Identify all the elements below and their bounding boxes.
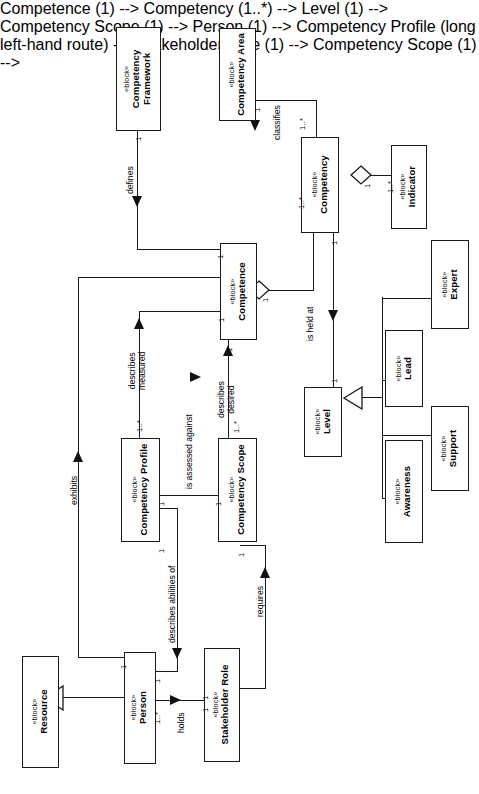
- multiplicity-competency-aggregation-end: 1: [363, 184, 372, 188]
- block-name-label: Competence: [237, 262, 248, 321]
- association-label-describes-desired: describes desired: [217, 381, 237, 418]
- block-competence-text: «block» Competence: [229, 262, 248, 321]
- multiplicity-level-end: 1: [330, 379, 339, 383]
- block-competency-profile[interactable]: «block» Competency Profile: [121, 438, 160, 542]
- line-area-to-competency-h: [255, 100, 317, 101]
- block-indicator-text: «block» Indicator: [400, 166, 419, 207]
- block-name-label: Resource: [39, 690, 50, 735]
- multiplicity-profile-assessed-end: 1: [157, 502, 166, 506]
- block-support[interactable]: «block» Support: [431, 406, 469, 491]
- block-name-label: Expert: [449, 269, 460, 299]
- multiplicity-competency-from-area: 1..*: [298, 118, 307, 130]
- block-stakeholder-role[interactable]: «block» Stakeholder Role: [204, 648, 240, 762]
- block-person-text: «block» Person: [130, 691, 149, 724]
- describes-abilities-of-arrowhead-icon: [172, 648, 182, 659]
- block-person[interactable]: «block» Person: [124, 652, 156, 764]
- block-name-label: Awareness: [403, 466, 414, 517]
- block-competence[interactable]: «block» Competence: [220, 243, 257, 340]
- multiplicity-framework-end: 1: [134, 137, 143, 141]
- multiplicity-scope-assessed-end: 1: [214, 502, 223, 506]
- block-lead[interactable]: «block» Lead: [385, 330, 423, 407]
- block-awareness[interactable]: «block» Awareness: [385, 440, 423, 543]
- block-name-label: Competency Area: [236, 33, 247, 116]
- block-competency-scope[interactable]: «block» Competency Scope: [218, 438, 257, 542]
- block-competency-area[interactable]: «block» Competency Area: [219, 28, 256, 121]
- block-name-label: Competency Framework: [132, 50, 153, 109]
- line-role-requires-h1: [240, 545, 266, 546]
- line-framework-to-competence-v: [137, 130, 138, 250]
- block-name-label: Person: [139, 691, 150, 724]
- block-competency-text: «block» Competency: [311, 156, 330, 215]
- describes-measured-line2: measured: [137, 352, 147, 390]
- multiplicity-person-holds-end: 1..*: [153, 712, 162, 724]
- line-level-to-gen: [360, 397, 383, 398]
- multiplicity-area-end: 1: [253, 108, 262, 112]
- block-name-label: Competency Profile: [139, 444, 150, 536]
- line-profile-to-scope: [160, 495, 220, 496]
- line-profile-to-person-h1: [160, 508, 178, 509]
- describes-measured-arrowhead-icon: [134, 318, 144, 329]
- block-lead-text: «block» Lead: [394, 355, 413, 381]
- classifies-arrowhead-icon: [250, 120, 260, 131]
- line-profile-measured-h: [139, 311, 220, 312]
- block-resource[interactable]: «block» Resource: [22, 656, 59, 768]
- multiplicity-competency-to-competence: 1..*: [297, 197, 306, 209]
- association-label-requires: requires: [256, 586, 266, 617]
- multiplicity-person-exhibits-end: 1: [119, 665, 128, 669]
- multiplicity-competence-desired-end: 1: [225, 348, 234, 352]
- association-label-describes-measured: describes measured: [128, 352, 148, 390]
- aggregation-diamond-competency-indicator-icon: [350, 165, 372, 185]
- block-name-label: Indicator: [408, 166, 419, 207]
- block-competency-framework[interactable]: «block» Competency Framework: [116, 27, 161, 131]
- exhibits-arrowhead-icon: [73, 451, 83, 462]
- multiplicity-competence-from-framework: 1: [216, 255, 225, 259]
- block-stakeholder-role-text: «block» Stakeholder Role: [213, 665, 232, 745]
- describes-measured-line1: describes: [127, 353, 137, 390]
- block-awareness-text: «block» Awareness: [395, 466, 414, 517]
- multiplicity-role-requires-end: 1: [201, 696, 210, 700]
- is-held-at-arrowhead-icon: [328, 310, 338, 321]
- generalization-triangle-level-icon: [343, 386, 363, 410]
- block-resource-text: «block» Resource: [31, 690, 50, 735]
- block-competency[interactable]: «block» Competency: [301, 137, 339, 233]
- block-competency-scope-text: «block» Competency Scope: [228, 445, 247, 536]
- block-name-label: Level: [322, 409, 333, 435]
- line-person-exhibits-h2: [78, 277, 220, 278]
- multiplicity-profile-measured-end: 1..*: [135, 420, 144, 432]
- block-name-label: Lead: [403, 355, 414, 381]
- multiplicity-competency-level-end: 1: [330, 241, 339, 245]
- block-name-label: Support: [449, 430, 460, 467]
- defines-arrowhead-icon: [132, 196, 142, 207]
- block-level-text: «block» Level: [313, 409, 332, 435]
- block-level[interactable]: «block» Level: [304, 387, 342, 457]
- multiplicity-competence-aggregation-end: 1: [261, 298, 270, 302]
- block-indicator[interactable]: «block» Indicator: [391, 145, 427, 229]
- line-gen-to-expert: [382, 298, 431, 299]
- line-profile-to-person-h2: [156, 671, 178, 672]
- association-label-holds: holds: [177, 712, 187, 733]
- line-person-exhibits-h1: [78, 657, 126, 658]
- holds-arrowhead-icon: [170, 695, 181, 705]
- block-name-label: Competency Scope: [236, 445, 247, 536]
- diagram-canvas: Competence (1) --> Competency (1..*) -->…: [0, 0, 479, 794]
- requires-arrowhead-icon: [260, 567, 270, 578]
- block-competency-profile-text: «block» Competency Profile: [131, 444, 150, 536]
- line-framework-to-competence-h: [137, 249, 220, 250]
- line-area-to-competency-v: [316, 100, 317, 137]
- association-label-is-assessed-against: is assessed against: [185, 414, 195, 489]
- block-support-text: «block» Support: [440, 430, 459, 467]
- association-label-describes-abilities-of: describes abilities of: [168, 566, 178, 643]
- describes-desired-line2: desired: [226, 386, 236, 414]
- block-expert[interactable]: «block» Expert: [431, 240, 469, 329]
- block-competency-framework-text: «block» Competency Framework: [124, 50, 154, 109]
- association-label-classifies: classifies: [273, 105, 283, 140]
- describes-desired-line1: describes: [216, 381, 226, 418]
- multiplicity-profile-person-end: 1: [157, 549, 166, 553]
- line-person-exhibits-v: [78, 277, 79, 658]
- block-competency-area-text: «block» Competency Area: [228, 33, 247, 116]
- multiplicity-scope-requires-end: 1: [237, 553, 246, 557]
- association-label-defines: defines: [126, 166, 136, 194]
- block-name-label: Stakeholder Role: [221, 665, 232, 745]
- block-name-label: Competency: [319, 156, 330, 215]
- multiplicity-role-holds-end: 1: [201, 708, 210, 712]
